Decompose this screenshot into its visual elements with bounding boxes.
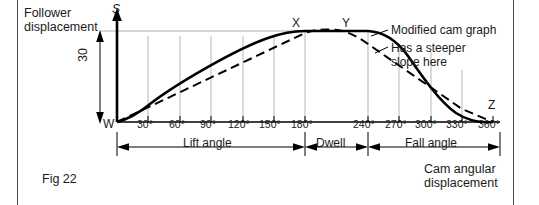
x-tick-30: 30° xyxy=(137,118,153,130)
x-tick-330: 330° xyxy=(446,118,468,130)
y-axis-symbol: S xyxy=(112,3,120,17)
x-tick-240: 240° xyxy=(353,118,375,130)
x-axis-title: Cam angular displacement xyxy=(424,162,498,191)
figure-page: Follower displacement S 30 Modified cam … xyxy=(0,0,539,205)
region-label-dwell: Dwell xyxy=(316,136,345,150)
y-axis-label: Follower displacement xyxy=(24,6,98,35)
region-label-fall-angle: Fall angle xyxy=(405,136,457,150)
figure-caption: Fig 22 xyxy=(42,172,77,186)
annotation-modified-cam-graph: Modified cam graph xyxy=(391,24,496,38)
x-tick-60: 60° xyxy=(169,118,185,130)
x-tick-270: 270° xyxy=(385,118,407,130)
annotation-leader-lines xyxy=(371,30,388,53)
x-tick-90: 90° xyxy=(200,118,216,130)
region-label-lift-angle: Lift angle xyxy=(183,136,232,150)
y-dimension-line xyxy=(96,30,104,124)
point-label-y: Y xyxy=(342,16,350,30)
x-tick-360: 360° xyxy=(478,118,500,130)
x-tick-300: 300° xyxy=(415,118,437,130)
annotation-steeper-slope: Has a steeper slope here xyxy=(391,42,466,70)
x-tick-180: 180° xyxy=(291,118,313,130)
point-label-z: Z xyxy=(488,98,495,112)
y-dimension-value: 30 xyxy=(76,48,90,62)
point-label-x: X xyxy=(292,16,300,30)
point-label-w: W xyxy=(103,117,114,131)
x-tick-120: 120° xyxy=(228,118,250,130)
x-tick-150: 150° xyxy=(259,118,281,130)
